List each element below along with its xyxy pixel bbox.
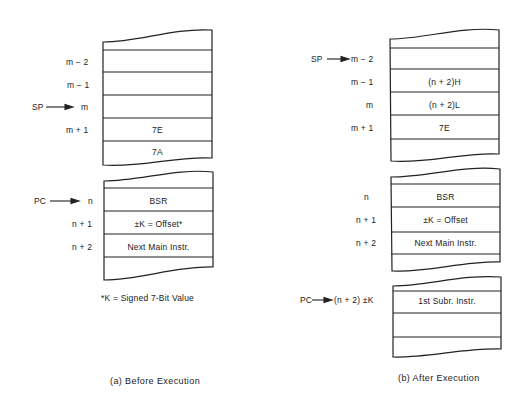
address-label: n — [88, 196, 93, 206]
memory-cell: BSR — [391, 192, 500, 202]
address-label: m − 2 — [66, 57, 89, 67]
memory-cell: 7E — [390, 123, 499, 133]
memory-cell: 7E — [103, 125, 212, 135]
stack-pointer-label-a: SP — [32, 102, 44, 112]
program-counter-label-b: PC — [300, 295, 312, 305]
memory-cell: (n + 2)H — [390, 77, 499, 87]
sp-arrow-a — [46, 105, 73, 110]
address-label: m − 1 — [351, 77, 374, 87]
memory-cell: (n + 2)L — [390, 100, 499, 110]
memory-cell: ±K = Offset* — [104, 219, 213, 229]
address-label: n — [364, 192, 369, 202]
program-counter-label-a: PC — [34, 196, 46, 206]
memory-cell: 7A — [103, 147, 212, 157]
address-label: m + 1 — [351, 123, 374, 133]
memory-cell: ±K = Offset — [391, 215, 500, 225]
address-label: m − 2 — [351, 54, 374, 64]
stack-memory-box-b — [390, 29, 499, 161]
address-label: m − 1 — [67, 80, 90, 90]
footnote: *K = Signed 7-Bit Value — [101, 293, 194, 303]
address-label: (n + 2) ±K — [334, 295, 374, 305]
sp-arrow-b — [327, 57, 349, 62]
address-label: m — [81, 102, 88, 112]
caption-a: (a) Before Execution — [110, 376, 200, 386]
address-label: n + 2 — [356, 238, 376, 248]
pc-arrow-b — [312, 298, 332, 303]
memory-cell: Next Main Instr. — [104, 242, 213, 252]
subroutine-memory-box-b — [393, 277, 501, 358]
address-label: n + 2 — [72, 242, 92, 252]
address-label: m + 1 — [66, 125, 89, 135]
memory-cell: Next Main Instr. — [391, 238, 500, 248]
address-label: m — [366, 100, 373, 110]
address-label: n + 1 — [356, 215, 376, 225]
pc-arrow-a — [50, 199, 79, 204]
memory-cell: BSR — [104, 196, 213, 206]
stack-memory-box-a — [103, 30, 212, 166]
stack-pointer-label-b: SP — [311, 54, 323, 64]
caption-b: (b) After Execution — [398, 373, 480, 383]
memory-cell: 1st Subr. Instr. — [393, 296, 501, 306]
address-label: n + 1 — [72, 219, 92, 229]
